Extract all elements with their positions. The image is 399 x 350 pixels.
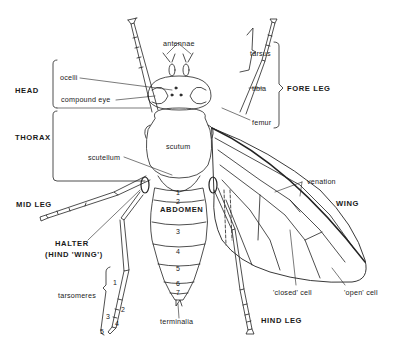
terminalia-leader <box>178 304 179 318</box>
abdominal-segment-7: 7 <box>176 289 180 296</box>
label-head: HEAD <box>15 87 39 95</box>
tarsomere-5: 5 <box>100 328 104 335</box>
label-femur: femur <box>252 119 271 126</box>
label-antennae: antennae <box>163 40 195 47</box>
label-open-cell: 'open' cell <box>344 289 378 296</box>
tarsomere-4: 4 <box>115 320 119 327</box>
head-bracket <box>53 60 57 108</box>
label-compound-eye: compound eye <box>61 96 111 103</box>
label-fore-leg: FORE LEG <box>287 85 331 93</box>
thorax-bracket <box>53 111 145 181</box>
halter-leader <box>88 190 140 240</box>
label-tibia: tibia <box>252 85 266 92</box>
label-thorax: THORAX <box>15 134 51 142</box>
closed-cell-leader <box>290 230 296 285</box>
label-venation: venation <box>307 178 336 185</box>
tarsomere-3: 3 <box>106 313 110 320</box>
abdominal-segment-6: 6 <box>176 280 180 287</box>
abdominal-segment-2: 2 <box>176 198 180 205</box>
label-scutellum: scutellum <box>88 154 120 161</box>
label-ocelli: ocelli <box>60 74 78 81</box>
tarsomere-2: 2 <box>121 306 125 313</box>
label-hind-leg: HIND LEG <box>261 317 302 325</box>
head-shape <box>148 76 211 110</box>
label-halter-subtitle: (HIND 'WING') <box>45 251 103 259</box>
label-halter: HALTER <box>55 240 89 248</box>
tarsomere-1: 1 <box>113 279 117 286</box>
label-wing: WING <box>336 200 359 208</box>
label-scutum: scutum <box>166 143 190 150</box>
label-terminalia: terminalia <box>160 318 193 325</box>
label-abdomen: ABDOMEN <box>160 206 203 214</box>
label-closed-cell: 'closed' cell <box>273 289 312 296</box>
abdominal-segment-5: 5 <box>176 265 180 272</box>
label-tarsomeres: tarsomeres <box>58 292 96 299</box>
fly-anatomy-diagram: HEAD THORAX ABDOMEN FORE LEG MID LEG HIN… <box>0 0 399 350</box>
label-tarsus: tarsus <box>250 50 271 57</box>
abdominal-segment-4: 4 <box>176 248 180 255</box>
abdominal-segment-3: 3 <box>176 228 180 235</box>
abdominal-segment-1: 1 <box>176 189 180 196</box>
fore-leg-bracket <box>274 42 283 128</box>
label-mid-leg: MID LEG <box>16 201 52 209</box>
